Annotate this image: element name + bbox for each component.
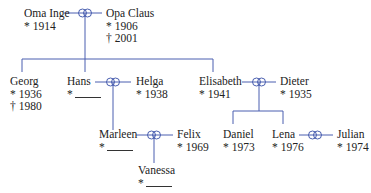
- birth-year: 1969: [186, 141, 209, 153]
- birth-year: 1914: [33, 20, 56, 32]
- person-name: Hans: [67, 75, 101, 88]
- birth-line: *: [67, 88, 101, 101]
- birth-symbol: *: [223, 141, 229, 153]
- birth-line: * 1935: [280, 88, 312, 101]
- person-marleen: Marleen *: [99, 128, 137, 153]
- person-opa-claus: Opa Claus * 1906 † 2001: [106, 7, 154, 45]
- birth-symbol: *: [138, 177, 144, 189]
- birth-line: *: [99, 141, 137, 154]
- birth-year: 1941: [208, 88, 231, 100]
- birth-line: * 1906: [106, 20, 154, 33]
- person-daniel: Daniel * 1973: [223, 128, 255, 153]
- death-year: 2001: [115, 32, 138, 44]
- birth-year: 1906: [115, 20, 138, 32]
- person-name: Lena: [272, 128, 304, 141]
- person-dieter: Dieter * 1935: [280, 75, 312, 100]
- birth-symbol: *: [199, 88, 205, 100]
- person-name: Helga: [136, 75, 168, 88]
- birth-line: * 1974: [337, 141, 369, 154]
- birth-symbol: *: [67, 88, 73, 100]
- person-helga: Helga * 1938: [136, 75, 168, 100]
- birth-symbol: *: [177, 141, 183, 153]
- death-line: † 2001: [106, 32, 154, 45]
- birth-year: 1938: [145, 88, 168, 100]
- person-vanessa: Vanessa *: [138, 164, 175, 189]
- person-name: Elisabeth: [199, 75, 242, 88]
- person-name: Vanessa: [138, 164, 175, 177]
- person-elisabeth: Elisabeth * 1941: [199, 75, 242, 100]
- birth-symbol: *: [272, 141, 278, 153]
- birth-symbol: *: [24, 20, 30, 32]
- birth-line: * 1936: [10, 88, 42, 101]
- birth-year: 1936: [19, 88, 42, 100]
- birth-symbol: *: [99, 141, 105, 153]
- person-georg: Georg * 1936 † 1980: [10, 75, 42, 113]
- person-felix: Felix * 1969: [177, 128, 209, 153]
- death-cross-icon: †: [10, 100, 16, 112]
- birth-year: 1974: [346, 141, 369, 153]
- birth-line: * 1938: [136, 88, 168, 101]
- birth-year: 1973: [232, 141, 255, 153]
- person-name: Felix: [177, 128, 209, 141]
- birth-symbol: *: [136, 88, 142, 100]
- death-year: 1980: [19, 100, 42, 112]
- death-line: † 1980: [10, 100, 42, 113]
- birth-symbol: *: [106, 20, 112, 32]
- birth-line: *: [138, 177, 175, 190]
- birth-line: * 1976: [272, 141, 304, 154]
- person-oma-inge: Oma Inge * 1914: [24, 7, 70, 32]
- birth-line: * 1914: [24, 20, 70, 33]
- birth-line: * 1941: [199, 88, 242, 101]
- person-lena: Lena * 1976: [272, 128, 304, 153]
- person-name: Julian: [337, 128, 369, 141]
- person-hans: Hans *: [67, 75, 101, 100]
- person-name: Georg: [10, 75, 42, 88]
- birth-year-blank: [146, 178, 172, 187]
- person-name: Marleen: [99, 128, 137, 141]
- person-name: Daniel: [223, 128, 255, 141]
- person-name: Oma Inge: [24, 7, 70, 20]
- birth-year-blank: [107, 142, 133, 151]
- birth-line: * 1969: [177, 141, 209, 154]
- birth-year-blank: [75, 89, 101, 98]
- birth-year: 1935: [289, 88, 312, 100]
- person-name: Opa Claus: [106, 7, 154, 20]
- birth-line: * 1973: [223, 141, 255, 154]
- death-cross-icon: †: [106, 32, 112, 44]
- birth-year: 1976: [281, 141, 304, 153]
- person-name: Dieter: [280, 75, 312, 88]
- birth-symbol: *: [280, 88, 286, 100]
- person-julian: Julian * 1974: [337, 128, 369, 153]
- birth-symbol: *: [10, 88, 16, 100]
- birth-symbol: *: [337, 141, 343, 153]
